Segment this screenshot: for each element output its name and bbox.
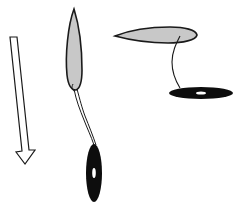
left-vertical-disc <box>86 144 102 202</box>
left-vertical-body <box>66 9 82 91</box>
diagram-canvas <box>0 0 240 209</box>
left-tether <box>74 89 96 145</box>
diagram-svg <box>0 0 240 209</box>
right-horizontal-body <box>115 27 197 43</box>
right-horizontal-disc <box>169 87 233 99</box>
right-tether <box>172 36 180 88</box>
down-arrow-icon <box>10 37 35 164</box>
